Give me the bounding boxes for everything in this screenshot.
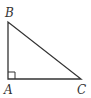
vertex-label-a: A — [4, 84, 13, 96]
triangle-abc — [8, 22, 81, 79]
right-angle-marker — [8, 72, 15, 79]
vertex-label-b: B — [5, 7, 14, 19]
vertex-label-c: C — [77, 84, 86, 96]
triangle-diagram: B A C — [0, 0, 91, 98]
